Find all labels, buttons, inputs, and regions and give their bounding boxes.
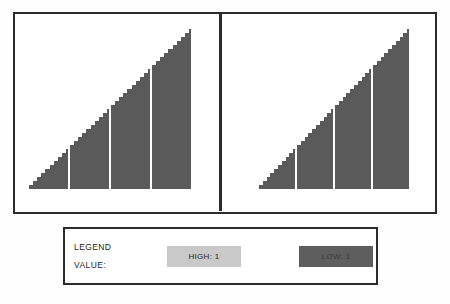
bar bbox=[45, 169, 49, 189]
bar bbox=[164, 53, 168, 189]
bar bbox=[301, 141, 305, 189]
legend-title: LEGEND VALUE: bbox=[74, 243, 136, 269]
bar bbox=[62, 153, 66, 189]
bar bbox=[148, 69, 151, 189]
bar bbox=[369, 69, 371, 189]
bar bbox=[278, 165, 282, 189]
bar bbox=[343, 97, 347, 189]
legend-item-high-label: HIGH: 1 bbox=[189, 253, 220, 261]
bar bbox=[350, 89, 354, 189]
bar bbox=[140, 77, 144, 189]
bar bbox=[115, 101, 119, 189]
bar bbox=[99, 117, 103, 189]
bar bbox=[144, 73, 148, 189]
legend-title-line-1: LEGEND bbox=[74, 243, 136, 252]
bar bbox=[407, 29, 409, 189]
bar bbox=[168, 49, 172, 189]
bar bbox=[107, 109, 110, 189]
bar bbox=[354, 85, 358, 189]
bar bbox=[86, 129, 90, 189]
bar bbox=[282, 161, 286, 189]
bar bbox=[297, 145, 301, 189]
bar bbox=[335, 105, 339, 189]
bar bbox=[185, 33, 189, 189]
legend-item-low-label: LOW: 1 bbox=[322, 253, 351, 261]
bar bbox=[403, 33, 407, 189]
bar bbox=[305, 137, 309, 189]
bar-chart-left bbox=[15, 14, 219, 211]
legend-title-line-2: VALUE: bbox=[74, 261, 136, 270]
bar bbox=[331, 109, 333, 189]
legend-box: LEGEND VALUE: HIGH: 1 LOW: 1 bbox=[63, 227, 378, 285]
bar bbox=[181, 37, 185, 189]
bar bbox=[82, 133, 86, 189]
bar bbox=[58, 157, 62, 189]
bar bbox=[327, 113, 331, 189]
bar-series-left bbox=[29, 29, 191, 189]
bar bbox=[373, 65, 377, 189]
bar-chart-right bbox=[222, 14, 434, 211]
bar bbox=[177, 41, 181, 189]
bar bbox=[156, 61, 160, 189]
bar bbox=[396, 41, 400, 189]
bar bbox=[381, 57, 385, 189]
plot-area-left bbox=[15, 14, 219, 211]
bar bbox=[136, 81, 140, 189]
bar bbox=[289, 153, 293, 189]
bar bbox=[119, 97, 123, 189]
bar bbox=[362, 77, 366, 189]
bar bbox=[270, 173, 274, 189]
bar bbox=[173, 45, 177, 189]
bar bbox=[400, 37, 404, 189]
chart-panel-left[interactable] bbox=[15, 14, 219, 211]
bar bbox=[66, 149, 69, 189]
bar bbox=[388, 49, 392, 189]
page-root: LEGEND VALUE: HIGH: 1 LOW: 1 bbox=[0, 0, 450, 304]
bar bbox=[308, 133, 312, 189]
bar bbox=[127, 89, 131, 189]
plot-area-right bbox=[222, 14, 434, 211]
bar bbox=[259, 185, 263, 189]
bar bbox=[29, 185, 33, 189]
bar bbox=[189, 29, 192, 189]
bar bbox=[70, 145, 74, 189]
bar bbox=[358, 81, 362, 189]
bar bbox=[365, 73, 369, 189]
bar bbox=[346, 93, 350, 189]
bar bbox=[286, 157, 290, 189]
bar bbox=[111, 105, 115, 189]
bar bbox=[324, 117, 328, 189]
legend-swatches: HIGH: 1 LOW: 1 bbox=[136, 229, 376, 283]
bar-series-right bbox=[259, 29, 409, 189]
legend-inner: LEGEND VALUE: HIGH: 1 LOW: 1 bbox=[65, 229, 376, 283]
bar bbox=[91, 125, 95, 189]
bar bbox=[392, 45, 396, 189]
bar bbox=[312, 129, 316, 189]
bar bbox=[37, 177, 41, 189]
bar bbox=[50, 165, 54, 189]
bar bbox=[267, 177, 271, 189]
chart-panel-right[interactable] bbox=[222, 14, 434, 211]
bar bbox=[33, 181, 37, 189]
bar bbox=[132, 85, 136, 189]
bar bbox=[160, 57, 164, 189]
bar bbox=[263, 181, 267, 189]
bar bbox=[41, 173, 45, 189]
bar bbox=[103, 113, 107, 189]
chart-frame bbox=[13, 12, 437, 214]
bar bbox=[95, 121, 99, 189]
legend-item-high[interactable]: HIGH: 1 bbox=[167, 246, 241, 267]
bar bbox=[74, 141, 78, 189]
bar bbox=[152, 65, 156, 189]
bar bbox=[320, 121, 324, 189]
legend-item-low[interactable]: LOW: 1 bbox=[299, 246, 373, 267]
bar bbox=[54, 161, 58, 189]
bar bbox=[274, 169, 278, 189]
bar bbox=[78, 137, 82, 189]
bar bbox=[339, 101, 343, 189]
bar bbox=[384, 53, 388, 189]
bar bbox=[123, 93, 127, 189]
bar bbox=[293, 149, 295, 189]
bar bbox=[377, 61, 381, 189]
bar bbox=[316, 125, 320, 189]
